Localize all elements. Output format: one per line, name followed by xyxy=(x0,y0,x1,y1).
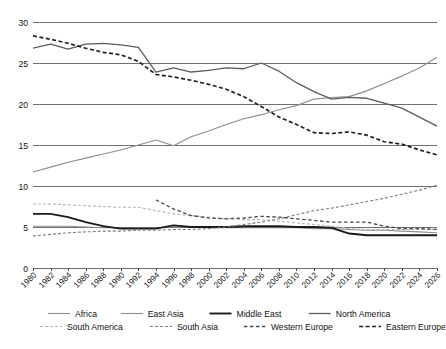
series-line-eastern-europe xyxy=(33,36,437,155)
legend-label-east-asia[interactable]: East Asia xyxy=(148,309,184,319)
y-tick-label: 25 xyxy=(18,59,28,69)
x-tick-label: 2012 xyxy=(300,270,320,290)
x-tick-label: 2018 xyxy=(353,270,373,290)
x-tick-label: 1998 xyxy=(177,270,197,290)
y-tick-label: 15 xyxy=(18,141,28,151)
y-tick-label: 10 xyxy=(18,182,28,192)
x-tick-label: 2008 xyxy=(265,270,285,290)
x-tick-label: 2010 xyxy=(282,270,302,290)
y-tick-label: 20 xyxy=(18,100,28,110)
x-tick-label: 2016 xyxy=(335,270,355,290)
series-line-western-europe xyxy=(156,200,437,230)
series-lines-group xyxy=(33,36,437,236)
legend-label-eastern-europe[interactable]: Eastern Europe xyxy=(386,322,446,332)
legend-label-western-europe[interactable]: Western Europe xyxy=(271,322,333,332)
x-tick-label: 1996 xyxy=(160,270,180,290)
x-tick-label: 1984 xyxy=(54,270,74,290)
x-tick-label: 2020 xyxy=(370,270,390,290)
chart-canvas: 051015202530 198019821984198619881990199… xyxy=(0,0,446,349)
legend-label-south-america[interactable]: South America xyxy=(67,322,123,332)
x-tick-label: 1988 xyxy=(89,270,109,290)
y-tick-label: 5 xyxy=(23,223,28,233)
x-tick-label: 1990 xyxy=(107,270,127,290)
legend-label-south-asia[interactable]: South Asia xyxy=(177,322,218,332)
x-tick-label: 2004 xyxy=(230,270,250,290)
x-tick-label: 1986 xyxy=(72,270,92,290)
x-axis-tick-labels: 1980198219841986198819901992199419961998… xyxy=(19,270,443,290)
legend-label-middle-east[interactable]: Middle East xyxy=(237,309,283,319)
y-tick-label: 30 xyxy=(18,18,28,28)
x-tick-label: 1982 xyxy=(37,270,57,290)
x-tick-label: 1980 xyxy=(19,270,39,290)
chart-legend: AfricaEast AsiaMiddle EastNorth AmericaS… xyxy=(40,309,446,332)
series-line-south-asia xyxy=(33,185,437,236)
series-line-africa xyxy=(33,57,437,172)
legend-label-africa[interactable]: Africa xyxy=(75,309,97,319)
y-tick-label: 0 xyxy=(23,264,28,274)
x-tick-label: 1992 xyxy=(124,270,144,290)
legend-label-north-america[interactable]: North America xyxy=(336,309,391,319)
x-tick-label: 2024 xyxy=(405,270,425,290)
x-tick-label: 2000 xyxy=(195,270,215,290)
series-line-north-america xyxy=(33,43,437,126)
x-tick-label: 2014 xyxy=(318,270,338,290)
y-axis-tick-labels: 051015202530 xyxy=(18,18,28,274)
x-tick-label: 2022 xyxy=(388,270,408,290)
line-chart-figure: 051015202530 198019821984198619881990199… xyxy=(0,0,446,349)
x-tick-label: 2006 xyxy=(247,270,267,290)
x-tick-label: 1994 xyxy=(142,270,162,290)
x-tick-label: 2026 xyxy=(423,270,443,290)
x-tick-label: 2002 xyxy=(212,270,232,290)
